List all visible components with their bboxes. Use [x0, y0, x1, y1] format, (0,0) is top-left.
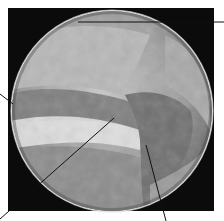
earth-illustration	[0, 0, 224, 221]
globe	[5, 10, 214, 215]
leader-line-left	[0, 94, 13, 104]
